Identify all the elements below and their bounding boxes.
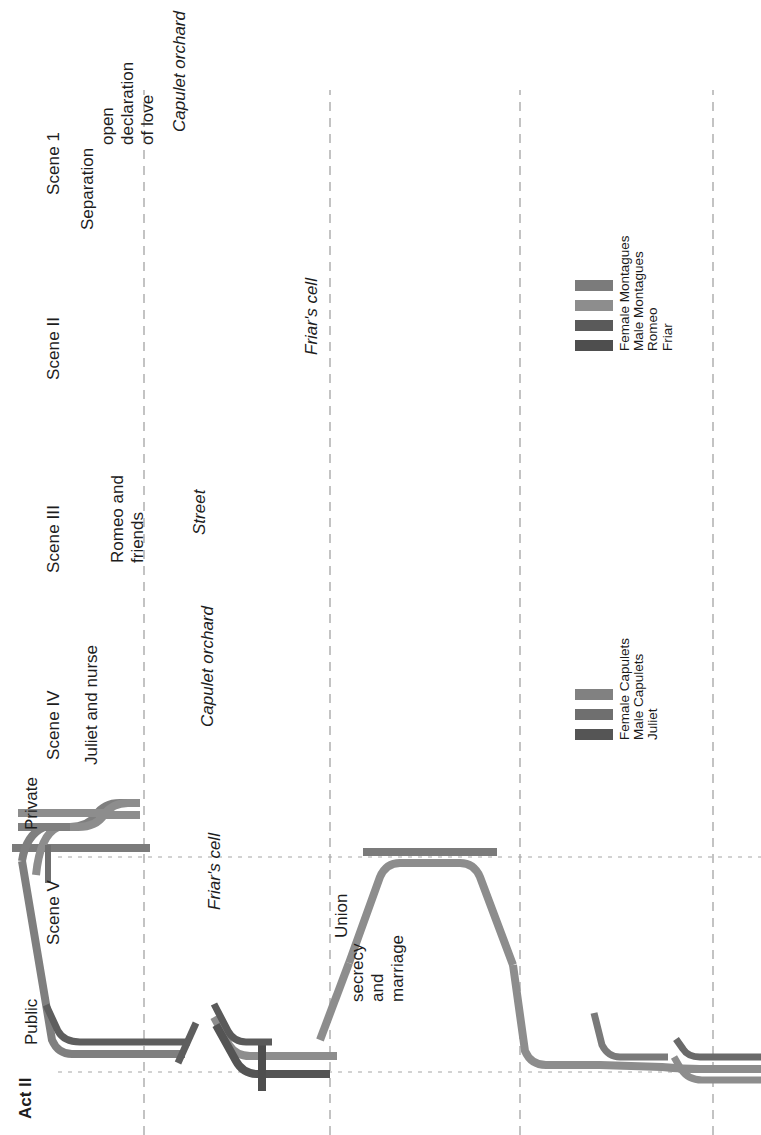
- scene-label-5: Scene V: [44, 880, 64, 945]
- legend-label-male-capulets: Male Capulets: [632, 638, 646, 740]
- swatch-juliet: [575, 689, 613, 700]
- legend-label-friar: Friar: [661, 235, 675, 351]
- swatch-male-capulets: [575, 709, 613, 720]
- swatch-friar: [575, 280, 613, 291]
- capulet-legend: Female Capulets Male Capulets Juliet: [575, 638, 661, 740]
- ribbon-group-scene3: [214, 963, 349, 1091]
- montague-legend-swatches: [575, 235, 613, 351]
- axis-label-private: Private: [22, 777, 42, 830]
- ribbon-diagram-figure: Act II Scene 1 Scene II Scene III Scene …: [0, 0, 761, 1135]
- montague-legend-labels: Female Montagues Male Montagues Romeo Fr…: [618, 235, 675, 351]
- ribbon-juliet-scene1: [594, 1013, 761, 1057]
- diagram-stage: Act II Scene 1 Scene II Scene III Scene …: [0, 0, 761, 1135]
- place-label-capulet-orchard-1: Capulet orchard: [170, 11, 190, 132]
- scene-label-2: Scene II: [44, 317, 64, 380]
- event-label-juliet-and-nurse: Juliet and nurse: [82, 645, 102, 765]
- event-label-open-declaration: open declaration of love: [98, 62, 158, 145]
- event-label-separation: Separation: [78, 148, 98, 230]
- axis-label-public: Public: [22, 999, 42, 1045]
- capulet-legend-swatches: [575, 638, 613, 740]
- montague-legend: Female Montagues Male Montagues Romeo Fr…: [575, 235, 675, 351]
- swatch-female-montagues: [575, 340, 613, 351]
- event-label-secrecy-and-marriage: secrecy and marriage: [348, 935, 408, 1002]
- ribbon-romeo-scene1: [513, 965, 761, 1080]
- legend-label-romeo: Romeo: [646, 235, 660, 351]
- place-label-capulet-orchard-2: Capulet orchard: [198, 606, 218, 727]
- scene-label-3: Scene III: [44, 505, 64, 573]
- place-label-friars-cell-1: Friar's cell: [302, 278, 322, 355]
- legend-label-juliet: Juliet: [646, 638, 660, 740]
- legend-label-female-capulets: Female Capulets: [618, 638, 632, 740]
- capulet-legend-labels: Female Capulets Male Capulets Juliet: [618, 638, 661, 740]
- swatch-romeo: [575, 300, 613, 311]
- scene-label-4: Scene IV: [44, 690, 64, 760]
- event-label-union: Union: [332, 894, 352, 938]
- act-title: Act II: [16, 1077, 36, 1119]
- scene-label-1: Scene 1: [44, 132, 64, 195]
- swatch-male-montagues: [575, 320, 613, 331]
- place-label-street: Street: [190, 490, 210, 535]
- legend-label-male-montagues: Male Montagues: [632, 235, 646, 351]
- legend-label-female-montagues: Female Montagues: [618, 235, 632, 351]
- event-label-romeo-and-friends: Romeo and friends: [108, 475, 148, 563]
- place-label-friars-cell-2: Friar's cell: [205, 833, 225, 910]
- swatch-female-capulets: [575, 729, 613, 740]
